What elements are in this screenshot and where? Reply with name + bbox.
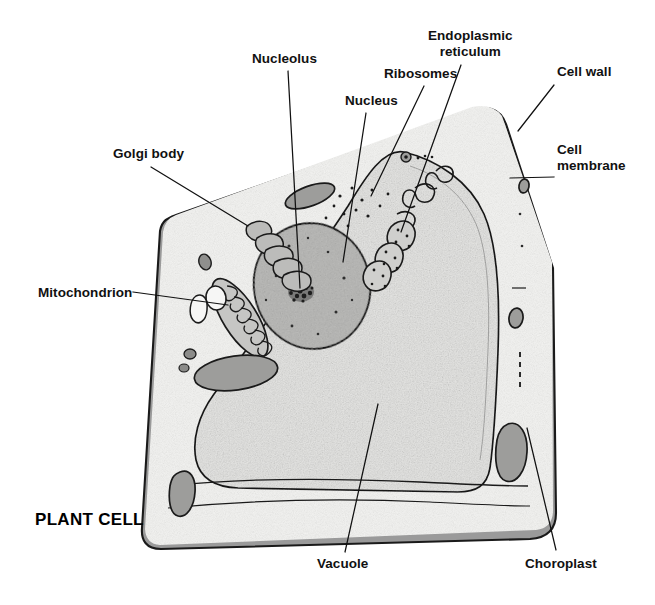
label-vacuole: Vacuole (317, 556, 368, 572)
label-cell-membrane: Cellmembrane (557, 142, 626, 174)
plant-cell-diagram: NucleolusNucleusRibosomesEndoplasmicreti… (0, 0, 655, 605)
label-endoplasmic-reticulum: Endoplasmicreticulum (428, 28, 513, 60)
leader-cell-wall (518, 85, 554, 131)
label-nucleolus: Nucleolus (252, 51, 317, 67)
label-mitochondrion: Mitochondrion (38, 285, 132, 301)
label-golgi-body: Golgi body (113, 146, 184, 162)
page-title: PLANT CELL (35, 510, 144, 530)
label-ribosomes: Ribosomes (384, 66, 457, 82)
label-choroplast: Choroplast (525, 556, 597, 572)
label-nucleus: Nucleus (345, 93, 398, 109)
label-cell-wall: Cell wall (557, 64, 611, 80)
